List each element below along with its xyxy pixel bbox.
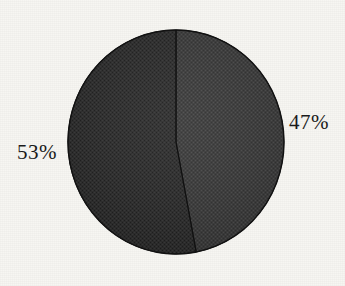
pie-chart-figure: 53% 47%: [0, 0, 345, 286]
pie-label-53: 53%: [17, 142, 57, 163]
pie-label-47: 47%: [289, 112, 329, 133]
